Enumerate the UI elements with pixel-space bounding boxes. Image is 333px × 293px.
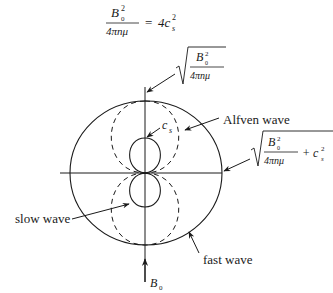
alfven-denominator: 4πnμ <box>190 70 210 81</box>
arrow-to-fast-wave <box>189 232 199 253</box>
eq-equals: = <box>145 15 152 30</box>
arrow-to-alfven-wave <box>185 118 219 130</box>
fast-cs-sup: 2 <box>321 145 325 153</box>
arrow-to-alfven-speed <box>147 74 175 92</box>
alfven-numerator-sub: 0 <box>205 60 208 66</box>
alfven-speed-label: B 2 0 4πnμ <box>147 47 226 92</box>
field-label: B <box>150 276 158 290</box>
eq-numerator: B <box>111 5 119 20</box>
phase-velocity-diagram: B 2 0 4πnμ = 4c 2 s B 2 0 4πnμ B 2 0 4πn… <box>0 0 333 293</box>
fast-numerator-sup: 2 <box>277 135 281 143</box>
fast-speed-label: B 2 0 4πnμ + c 2 s <box>224 131 333 171</box>
eq-rhs-sub: s <box>172 24 175 33</box>
fast-cs-sub: s <box>321 155 324 163</box>
eq-denominator: 4πnμ <box>106 25 129 37</box>
sound-speed-label: c <box>162 118 168 132</box>
fast-numerator: B <box>268 135 276 149</box>
eq-rhs: 4c <box>158 15 171 30</box>
alfven-numerator: B <box>196 50 204 64</box>
slow-wave-label: slow wave <box>15 211 70 226</box>
fast-numerator-sub: 0 <box>277 145 280 151</box>
arrow-to-fast-speed <box>224 159 250 171</box>
fast-plus-cs: + c <box>302 146 319 160</box>
eq-numerator-sup: 2 <box>121 4 125 13</box>
top-equation: B 2 0 4πnμ = 4c 2 s <box>106 4 176 37</box>
sound-speed-sub: s <box>169 126 172 135</box>
fast-denominator: 4πnμ <box>264 155 284 166</box>
eq-rhs-sup: 2 <box>172 13 176 22</box>
alfven-wave-label: Alfven wave <box>223 112 290 127</box>
field-label-sub: 0 <box>159 284 163 292</box>
fast-wave-label: fast wave <box>203 252 253 267</box>
eq-numerator-sub: 0 <box>121 15 125 23</box>
arrow-to-slow-wave <box>72 204 129 219</box>
arrow-to-sound-speed <box>147 128 160 137</box>
alfven-numerator-sup: 2 <box>205 50 209 58</box>
